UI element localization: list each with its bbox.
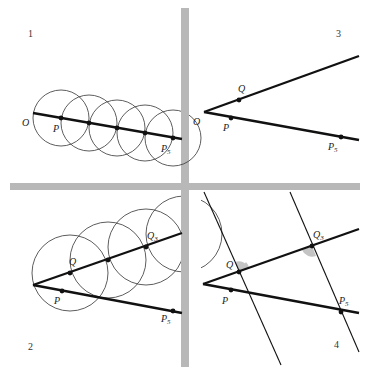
label-q: Q (226, 259, 234, 270)
point-p (229, 116, 234, 121)
label-p5: P5 (160, 313, 171, 326)
point-q (68, 271, 73, 276)
point-q3 (310, 244, 315, 249)
label-p: P (221, 295, 228, 306)
ray-oq (204, 56, 359, 112)
label-p5: P5 (160, 143, 171, 156)
label-q3: Q3 (147, 230, 158, 243)
construction-figure: 1 O P P5 3 O Q P (0, 0, 375, 378)
panel-3: 3 O Q P P5 (193, 28, 359, 154)
panel-1: 1 O P P5 (22, 28, 201, 166)
parallel-line-q3-p5 (290, 192, 359, 352)
point-p (229, 288, 234, 293)
label-q: Q (238, 83, 246, 94)
label-p5: P5 (327, 141, 338, 154)
point-p5 (339, 135, 344, 140)
panel-4: Q Q3 P P5 4 (203, 192, 359, 365)
point-p (60, 289, 65, 294)
point-q (237, 270, 242, 275)
point-q (237, 98, 242, 103)
panel-number-3: 3 (336, 28, 341, 39)
panel-number-1: 1 (28, 28, 33, 39)
label-o: O (193, 116, 200, 127)
panel-number-4: 4 (334, 339, 339, 350)
label-q: Q (69, 256, 77, 267)
point-p5 (339, 310, 344, 315)
label-q3: Q3 (313, 229, 324, 242)
label-o: O (22, 117, 29, 128)
point-p5 (171, 309, 176, 314)
label-p: P (53, 295, 60, 306)
ray-oq (203, 229, 359, 284)
label-p: P (52, 123, 59, 134)
label-p: P (222, 122, 229, 133)
point-q3 (144, 245, 149, 250)
panel-number-2: 2 (28, 341, 33, 352)
panel-2: Q Q3 P P5 2 (10, 183, 222, 367)
point-q2 (106, 258, 111, 263)
